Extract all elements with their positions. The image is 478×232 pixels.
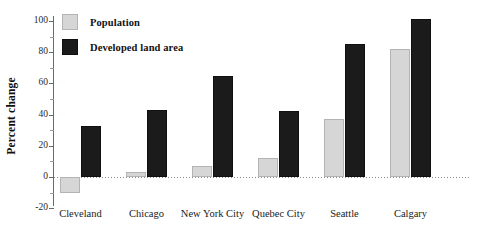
legend-swatch-population-icon [62,14,78,30]
bar-developed-land-area [81,126,101,177]
y-axis-tick-label: 100 [20,16,48,26]
bar-chart: Percent change -20020406080100 Cleveland… [0,0,478,232]
legend-label-population: Population [90,17,140,28]
legend-item-developed-land-area: Developed land area [62,39,183,55]
bar-population [324,119,344,177]
bar-population [192,166,212,177]
bar-population [126,172,146,177]
y-axis-title: Percent change [0,0,22,232]
bar-developed-land-area [279,111,299,177]
bar-population [60,177,80,193]
y-axis-tick-label: 60 [20,78,48,88]
legend-swatch-developed-land-icon [62,39,78,55]
y-axis-tick-label: 20 [20,141,48,151]
legend-label-developed-land-area: Developed land area [90,42,183,53]
y-axis-tick-label: 40 [20,110,48,120]
y-axis-tick-label: 80 [20,47,48,57]
x-axis-label: Calgary [351,208,471,219]
legend-item-population: Population [62,14,183,30]
bar-population [390,49,410,177]
bar-developed-land-area [411,19,431,177]
bar-developed-land-area [345,44,365,177]
y-axis-tick-label: 0 [20,172,48,182]
bar-population [258,158,278,177]
chart-legend: Population Developed land area [62,14,183,64]
bar-developed-land-area [147,110,167,177]
bar-developed-land-area [213,76,233,177]
